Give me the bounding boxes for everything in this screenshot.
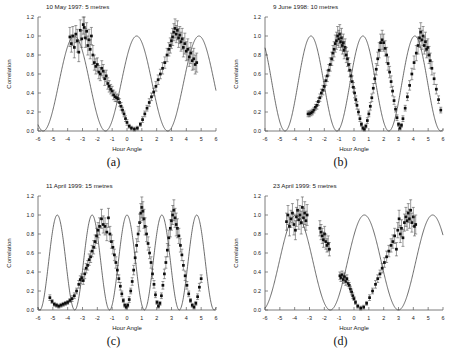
svg-text:6: 6 (442, 315, 445, 321)
panel-d: 23 April 1999: 5 metres0.00.20.40.60.81.… (227, 179, 454, 358)
svg-text:-1: -1 (337, 136, 342, 142)
panel-c-plot: 11 April 1999: 15 metres0.00.20.40.60.81… (0, 179, 227, 339)
svg-text:-4: -4 (292, 315, 297, 321)
svg-text:1.0: 1.0 (27, 33, 35, 39)
svg-text:0.0: 0.0 (27, 128, 35, 134)
svg-text:4: 4 (412, 136, 415, 142)
svg-text:-4: -4 (65, 136, 70, 142)
svg-text:Correlation: Correlation (233, 238, 239, 267)
svg-text:-4: -4 (65, 315, 70, 321)
svg-text:Hour Angle: Hour Angle (112, 146, 142, 152)
svg-text:-4: -4 (292, 136, 297, 142)
caption-d: (d) (227, 334, 454, 349)
svg-text:-5: -5 (277, 315, 282, 321)
svg-text:0.2: 0.2 (27, 109, 35, 115)
svg-text:Hour Angle: Hour Angle (339, 325, 369, 331)
svg-text:Hour Angle: Hour Angle (339, 146, 369, 152)
svg-text:3: 3 (170, 315, 173, 321)
svg-text:0: 0 (126, 136, 129, 142)
svg-text:0.2: 0.2 (27, 288, 35, 294)
svg-text:0: 0 (353, 315, 356, 321)
panel-b-plot: 9 June 1998: 10 metres0.00.20.40.60.81.0… (227, 0, 454, 160)
panel-d-plot: 23 April 1999: 5 metres0.00.20.40.60.81.… (227, 179, 454, 339)
svg-text:0: 0 (126, 315, 129, 321)
svg-text:0.2: 0.2 (254, 288, 262, 294)
svg-text:2: 2 (155, 315, 158, 321)
svg-text:4: 4 (412, 315, 415, 321)
svg-text:0.8: 0.8 (254, 231, 262, 237)
svg-text:-6: -6 (36, 315, 41, 321)
svg-text:-3: -3 (80, 315, 85, 321)
svg-text:1: 1 (367, 315, 370, 321)
svg-text:-2: -2 (322, 315, 327, 321)
svg-text:0.8: 0.8 (27, 52, 35, 58)
svg-text:1.2: 1.2 (254, 14, 262, 20)
svg-text:0.0: 0.0 (27, 307, 35, 313)
svg-text:0.6: 0.6 (254, 71, 262, 77)
svg-text:-5: -5 (50, 136, 55, 142)
panel-a: 10 May 1997: 5 metres0.00.20.40.60.81.01… (0, 0, 227, 179)
svg-text:0.6: 0.6 (27, 250, 35, 256)
svg-text:-3: -3 (307, 136, 312, 142)
svg-text:-2: -2 (322, 136, 327, 142)
panel-b: 9 June 1998: 10 metres0.00.20.40.60.81.0… (227, 0, 454, 179)
svg-text:-6: -6 (263, 315, 268, 321)
svg-text:Correlation: Correlation (233, 59, 239, 88)
svg-text:-1: -1 (110, 136, 115, 142)
svg-text:-3: -3 (80, 136, 85, 142)
svg-text:6: 6 (215, 136, 218, 142)
svg-text:2: 2 (382, 136, 385, 142)
svg-text:Hour Angle: Hour Angle (112, 325, 142, 331)
svg-text:0.6: 0.6 (254, 250, 262, 256)
svg-text:-1: -1 (110, 315, 115, 321)
caption-c: (c) (0, 334, 227, 349)
svg-text:-2: -2 (95, 136, 100, 142)
svg-text:2: 2 (382, 315, 385, 321)
svg-text:11 April 1999: 15 metres: 11 April 1999: 15 metres (46, 182, 113, 189)
svg-text:9 June 1998: 10 metres: 9 June 1998: 10 metres (273, 3, 338, 10)
svg-text:0: 0 (353, 136, 356, 142)
svg-text:1.2: 1.2 (27, 14, 35, 20)
svg-text:3: 3 (170, 136, 173, 142)
svg-text:-2: -2 (95, 315, 100, 321)
svg-text:5: 5 (200, 136, 203, 142)
panel-a-plot: 10 May 1997: 5 metres0.00.20.40.60.81.01… (0, 0, 227, 160)
svg-text:-1: -1 (337, 315, 342, 321)
svg-text:-3: -3 (307, 315, 312, 321)
svg-text:-6: -6 (263, 136, 268, 142)
svg-text:0.2: 0.2 (254, 109, 262, 115)
svg-text:0.8: 0.8 (254, 52, 262, 58)
svg-text:3: 3 (397, 136, 400, 142)
svg-text:0.4: 0.4 (254, 269, 262, 275)
svg-text:4: 4 (185, 315, 188, 321)
svg-text:10 May 1997: 5 metres: 10 May 1997: 5 metres (46, 3, 109, 10)
svg-text:5: 5 (427, 315, 430, 321)
svg-text:-5: -5 (50, 315, 55, 321)
svg-text:1: 1 (140, 315, 143, 321)
svg-text:1: 1 (140, 136, 143, 142)
svg-text:1.0: 1.0 (254, 33, 262, 39)
figure-panel-grid: 10 May 1997: 5 metres0.00.20.40.60.81.01… (0, 0, 454, 358)
svg-text:0.4: 0.4 (254, 90, 262, 96)
svg-text:1.2: 1.2 (254, 193, 262, 199)
svg-text:Correlation: Correlation (6, 59, 12, 88)
svg-text:1.0: 1.0 (27, 212, 35, 218)
svg-text:-6: -6 (36, 136, 41, 142)
svg-text:5: 5 (200, 315, 203, 321)
svg-text:1.2: 1.2 (27, 193, 35, 199)
svg-text:23 April 1999: 5 metres: 23 April 1999: 5 metres (273, 182, 337, 189)
svg-text:3: 3 (397, 315, 400, 321)
svg-text:5: 5 (427, 136, 430, 142)
svg-text:0.0: 0.0 (254, 307, 262, 313)
svg-text:6: 6 (442, 136, 445, 142)
panel-c: 11 April 1999: 15 metres0.00.20.40.60.81… (0, 179, 227, 358)
svg-text:Correlation: Correlation (6, 238, 12, 267)
svg-text:2: 2 (155, 136, 158, 142)
caption-a: (a) (0, 155, 227, 170)
svg-text:0.8: 0.8 (27, 231, 35, 237)
caption-b: (b) (227, 155, 454, 170)
svg-text:0.4: 0.4 (27, 269, 35, 275)
svg-text:1.0: 1.0 (254, 212, 262, 218)
svg-text:-5: -5 (277, 136, 282, 142)
svg-text:0.6: 0.6 (27, 71, 35, 77)
